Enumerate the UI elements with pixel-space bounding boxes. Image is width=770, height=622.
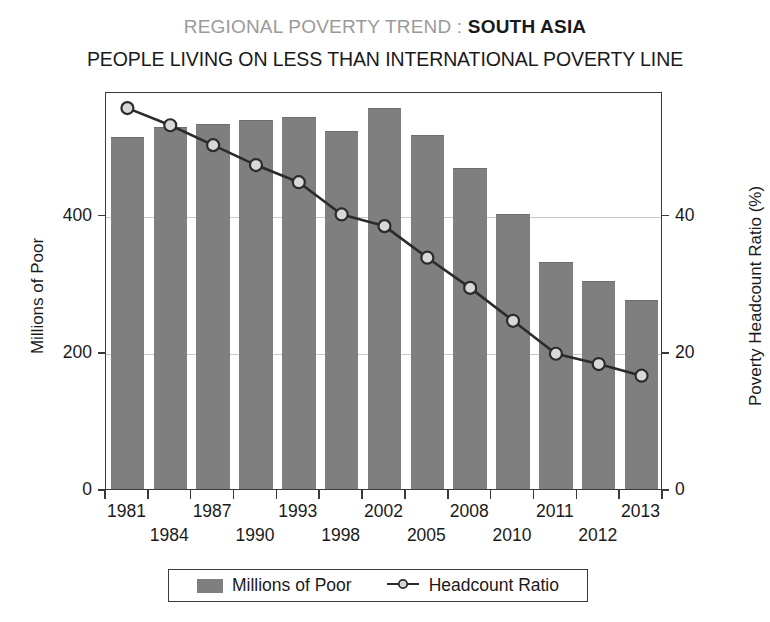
- legend-bar-label: Millions of Poor: [232, 575, 352, 596]
- x-tick-6: [361, 490, 363, 499]
- chart-subtitle: PEOPLE LIVING ON LESS THAN INTERNATIONAL…: [0, 48, 770, 71]
- x-tick-label-1984: 1984: [134, 525, 204, 546]
- bar-1987: [196, 124, 229, 489]
- legend-line-label: Headcount Ratio: [429, 575, 559, 596]
- bar-1990: [239, 120, 272, 489]
- bar-1981: [111, 137, 144, 489]
- legend-item-headcount-ratio: Headcount Ratio: [386, 575, 559, 596]
- x-tick-label-2013: 2013: [606, 501, 676, 522]
- x-tick-1: [147, 490, 149, 499]
- x-tick-7: [404, 490, 406, 499]
- x-tick-label-2010: 2010: [477, 525, 547, 546]
- x-tick-label-2012: 2012: [563, 525, 633, 546]
- x-tick-0: [104, 490, 106, 499]
- x-tick-label-1987: 1987: [177, 501, 247, 522]
- x-tick-label-2005: 2005: [391, 525, 461, 546]
- y-tick-left-200: [98, 352, 105, 354]
- x-tick-5: [318, 490, 320, 499]
- x-tick-12: [618, 490, 620, 499]
- chart-title: REGIONAL POVERTY TREND : SOUTH ASIA: [0, 16, 770, 38]
- bar-2002: [368, 108, 401, 489]
- chart-title-prefix: REGIONAL POVERTY TREND :: [184, 16, 468, 37]
- bar-2008: [453, 168, 486, 489]
- y-tick-label-left-400: 400: [63, 205, 92, 226]
- x-tick-10: [533, 490, 535, 499]
- y-tick-label-right-40: 40: [675, 205, 694, 226]
- bar-2013: [625, 300, 658, 489]
- x-tick-label-1998: 1998: [306, 525, 376, 546]
- bar-1998: [325, 131, 358, 489]
- y-tick-label-left-0: 0: [82, 479, 92, 500]
- poverty-trend-chart: REGIONAL POVERTY TREND : SOUTH ASIA PEOP…: [0, 0, 770, 622]
- x-tick-2: [190, 490, 192, 499]
- chart-legend: Millions of Poor Headcount Ratio: [168, 569, 588, 602]
- y-tick-left-400: [98, 215, 105, 217]
- bar-2010: [496, 214, 529, 489]
- x-tick-13: [661, 490, 663, 499]
- x-tick-8: [447, 490, 449, 499]
- y-tick-label-right-0: 0: [675, 479, 685, 500]
- y-tick-right-0: [662, 489, 669, 491]
- y-tick-label-left-200: 200: [63, 342, 92, 363]
- x-tick-label-1981: 1981: [91, 501, 161, 522]
- bar-2012: [582, 281, 615, 489]
- legend-bar-swatch-icon: [197, 579, 223, 593]
- x-tick-label-1990: 1990: [220, 525, 290, 546]
- bar-1993: [282, 117, 315, 489]
- bar-2005: [411, 135, 444, 489]
- x-tick-4: [276, 490, 278, 499]
- bar-1984: [154, 127, 187, 489]
- x-tick-3: [233, 490, 235, 499]
- x-tick-label-2002: 2002: [349, 501, 419, 522]
- y-tick-right-40: [662, 215, 669, 217]
- x-tick-label-2011: 2011: [520, 501, 590, 522]
- plot-area: [105, 92, 662, 490]
- x-tick-11: [576, 490, 578, 499]
- data-point-1981: [121, 102, 133, 114]
- y-tick-label-right-20: 20: [675, 342, 694, 363]
- bar-2011: [539, 262, 572, 489]
- y-tick-right-20: [662, 352, 669, 354]
- x-tick-9: [490, 490, 492, 499]
- x-tick-label-2008: 2008: [434, 501, 504, 522]
- chart-title-region: SOUTH ASIA: [468, 16, 586, 37]
- legend-line-marker-icon: [386, 575, 420, 596]
- legend-item-millions-of-poor: Millions of Poor: [197, 575, 352, 596]
- x-tick-label-1993: 1993: [263, 501, 333, 522]
- y-axis-right-title: Poverty Headcount Ratio (%): [746, 146, 766, 446]
- y-axis-left-title: Millions of Poor: [28, 196, 48, 396]
